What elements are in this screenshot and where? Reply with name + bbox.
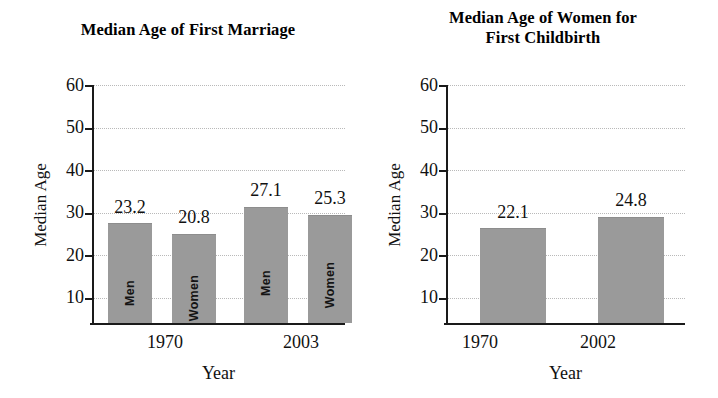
y-axis-line-marriage: [92, 85, 94, 325]
gridline-60-childbirth: [446, 85, 685, 86]
bar-value-2003-women: 25.3: [300, 188, 360, 209]
chart-title-first-marriage: Median Age of First Marriage: [38, 20, 338, 40]
x-tick-label-2003-marriage: 2003: [266, 332, 336, 353]
gridline-50-marriage: [92, 128, 345, 129]
y-tick-label-40-marriage: 40: [42, 161, 84, 179]
y-tick-label-10-marriage: 10: [42, 288, 84, 306]
y-tick-50-childbirth: [439, 128, 448, 130]
y-tick-label-30-childbirth: 30: [396, 203, 438, 221]
x-axis-title-marriage: Year: [92, 363, 345, 384]
y-tick-30-childbirth: [439, 213, 448, 215]
y-tick-10-marriage: [85, 298, 94, 300]
bar-2003-women: Women: [308, 215, 352, 324]
plot-area-childbirth: 22.1 24.8: [446, 85, 685, 325]
bar-2002-childbirth: [598, 217, 664, 323]
gridline-60-marriage: [92, 85, 345, 86]
gridline-50-childbirth: [446, 128, 685, 129]
bar-inner-label-1970-men: Men: [123, 262, 137, 324]
y-tick-20-childbirth: [439, 255, 448, 257]
y-tick-label-20-childbirth: 20: [396, 246, 438, 264]
y-tick-label-60-childbirth: 60: [396, 76, 438, 94]
chart-panel-first-childbirth: Median Age of Women for First Childbirth…: [370, 0, 718, 398]
y-tick-label-50-marriage: 50: [42, 118, 84, 136]
bar-1970-women: Women: [172, 234, 216, 323]
y-tick-30-marriage: [85, 213, 94, 215]
x-tick-label-1970-marriage: 1970: [130, 332, 200, 353]
y-tick-60-marriage: [85, 85, 94, 87]
bar-2003-men: Men: [244, 207, 288, 323]
y-tick-label-40-childbirth: 40: [396, 161, 438, 179]
y-tick-50-marriage: [85, 128, 94, 130]
gridline-40-childbirth: [446, 170, 685, 171]
y-tick-label-20-marriage: 20: [42, 246, 84, 264]
chart-title-line-2: First Childbirth: [398, 28, 688, 48]
y-tick-label-60-marriage: 60: [42, 76, 84, 94]
bar-value-1970-men: 23.2: [100, 197, 160, 218]
bar-1970-men: Men: [108, 223, 152, 323]
y-tick-40-marriage: [85, 170, 94, 172]
bar-value-1970-childbirth: 22.1: [478, 202, 548, 223]
x-axis-title-childbirth: Year: [446, 363, 685, 384]
bar-inner-label-2003-women: Women: [323, 249, 337, 321]
x-tick-label-1970-childbirth: 1970: [445, 332, 515, 353]
chart-panel-first-marriage: Median Age of First Marriage Median Age …: [0, 0, 370, 398]
chart-title-line-1: Median Age of Women for: [398, 8, 688, 28]
bar-inner-label-1970-women: Women: [187, 262, 201, 334]
y-tick-label-10-childbirth: 10: [396, 288, 438, 306]
bar-value-1970-women: 20.8: [164, 207, 224, 228]
y-tick-20-marriage: [85, 255, 94, 257]
y-tick-label-50-childbirth: 50: [396, 118, 438, 136]
bar-value-2002-childbirth: 24.8: [596, 190, 666, 211]
x-tick-label-2002-childbirth: 2002: [563, 332, 633, 353]
figure-two-bar-charts: Median Age of First Marriage Median Age …: [0, 0, 718, 398]
bar-value-2003-men: 27.1: [236, 180, 296, 201]
chart-title-first-childbirth: Median Age of Women for First Childbirth: [398, 8, 688, 48]
x-axis-line-childbirth: [444, 323, 685, 325]
y-tick-10-childbirth: [439, 298, 448, 300]
gridline-40-marriage: [92, 170, 345, 171]
y-axis-line-childbirth: [446, 85, 448, 325]
plot-area-marriage: Men 23.2 Women 20.8 Men 27.1 Women 25.3: [92, 85, 345, 325]
y-tick-label-30-marriage: 30: [42, 203, 84, 221]
bar-inner-label-2003-men: Men: [259, 252, 273, 314]
y-tick-40-childbirth: [439, 170, 448, 172]
y-tick-60-childbirth: [439, 85, 448, 87]
bar-1970-childbirth: [480, 228, 546, 323]
